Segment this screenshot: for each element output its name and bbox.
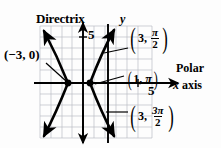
right-paren-icon-3: ) (168, 104, 174, 129)
x-axis-label: x axis (173, 79, 202, 91)
left-paren-icon-3: ( (130, 104, 136, 129)
point-label-3-3pi-over-2: ( 3 , 3π 2 ) (128, 104, 176, 129)
point3-fraction: 3π 2 (151, 105, 165, 128)
directrix-label: Directrix (36, 12, 85, 25)
point3-comma: , (144, 110, 150, 122)
vertex-label: (−3, 0) (4, 48, 40, 61)
x-axis-label-rest: axis (179, 78, 202, 92)
y-tick-label-5: 5 (88, 28, 95, 41)
hyperbola-right-branch-lower (90, 83, 114, 136)
point1-theta-den: 2 (151, 38, 159, 50)
left-paren-icon-2: ( (128, 70, 132, 88)
hyperbola-left-branch (44, 31, 68, 83)
left-paren-icon: ( (130, 26, 136, 51)
y-axis-label: y (120, 13, 125, 25)
point2-theta: π (145, 73, 152, 85)
polar-label: Polar (176, 62, 204, 74)
polar-conic-figure: Directrix y 5 5 (−3, 0) Polar x axis ( 3… (0, 0, 221, 148)
vertex-dot-right (87, 80, 94, 87)
right-paren-icon: ) (162, 26, 168, 51)
point3-theta-num: 3π (151, 105, 165, 116)
point-label-1-pi: ( 1 , π ) (126, 70, 159, 88)
right-paren-icon-2: ) (154, 70, 158, 88)
hyperbola-left-branch-lower (44, 83, 68, 136)
point1-comma: , (144, 32, 150, 44)
point3-theta-den: 2 (154, 116, 162, 128)
point-label-3-pi-over-2: ( 3 , π 2 ) (128, 26, 170, 51)
point1-theta-num: π (151, 27, 159, 38)
point1-fraction: π 2 (151, 27, 159, 50)
